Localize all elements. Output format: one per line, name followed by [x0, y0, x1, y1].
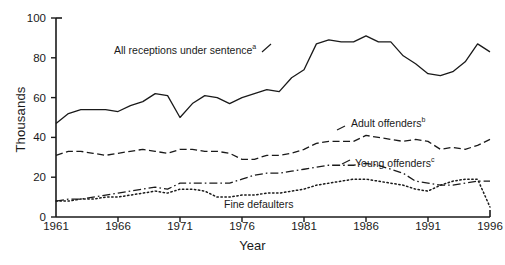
- x-tick-1971: 1971: [167, 220, 193, 232]
- x-tick-1961: 1961: [43, 220, 69, 232]
- x-tick-1996: 1996: [477, 220, 503, 232]
- x-tick-1966: 1966: [105, 220, 131, 232]
- x-tick-1976: 1976: [229, 220, 255, 232]
- x-axis-title: Year: [0, 238, 505, 253]
- chart-figure: Thousands 020406080100 19611966197119761…: [0, 0, 505, 265]
- x-tick-1981: 1981: [291, 220, 317, 232]
- x-tick-1991: 1991: [415, 220, 441, 232]
- x-axis-tick-labels: 19611966197119761981198619911996: [0, 0, 505, 265]
- series-label-all-receptions: All receptions under sentencea: [114, 41, 256, 56]
- series-label-adult-offenders: Adult offendersb: [351, 114, 425, 129]
- series-label-fine-defaulters: Fine defaulters: [224, 198, 293, 210]
- series-label-young-offenders: Young offendersc: [355, 154, 434, 169]
- x-tick-1986: 1986: [353, 220, 379, 232]
